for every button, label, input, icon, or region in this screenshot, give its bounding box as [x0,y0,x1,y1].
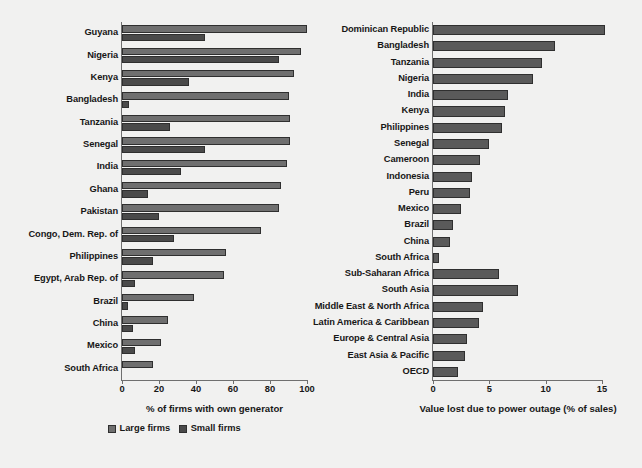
category-label-kenya: Kenya [402,107,429,116]
bar-row: India [433,87,602,103]
y-axis-line-right [432,22,433,380]
bar-row: Pakistan [122,201,307,223]
bar-row: China [122,313,307,335]
category-label-peru: Peru [409,188,429,197]
bar-sub-saharan-africa-value-lost-due-to-power-outage [433,269,499,279]
legend-item-small-firms[interactable]: Small firms [179,424,241,433]
bar-brazil-large-firms [122,294,194,301]
bar-peru-value-lost-due-to-power-outage [433,188,470,198]
category-label-brazil: Brazil [93,297,118,306]
bar-row: OECD [433,364,602,380]
bar-row: Bangladesh [122,89,307,111]
bar-philippines-large-firms [122,249,226,256]
category-label-mexico: Mexico [87,342,118,351]
bar-row: Latin America & Caribbean [433,315,602,331]
bar-brazil-small-firms [122,302,128,309]
legend-label: Small firms [191,424,241,433]
bar-brazil-value-lost-due-to-power-outage [433,220,453,230]
x-axis-ticks-left: 020406080100 [122,380,307,400]
bar-nigeria-large-firms [122,48,301,55]
x-axis-title-right: Value lost due to power outage (% of sal… [413,404,623,414]
bar-row: Peru [433,185,602,201]
figure-canvas: GuyanaNigeriaKenyaBangladeshTanzaniaSene… [0,0,642,468]
bar-row: Brazil [122,291,307,313]
x-axis-title-left: % of firms with own generator [122,404,307,414]
bar-pakistan-small-firms [122,213,159,220]
category-label-brazil: Brazil [404,221,429,230]
bar-kenya-large-firms [122,70,294,77]
bar-south-africa-large-firms [122,361,153,368]
category-label-nigeria: Nigeria [87,51,118,60]
bar-kenya-value-lost-due-to-power-outage [433,106,505,116]
bar-row: Senegal [433,136,602,152]
category-label-egypt-arab-rep-of: Egypt, Arab Rep. of [34,275,118,284]
bar-row: Kenya [122,67,307,89]
category-label-sub-saharan-africa: Sub-Saharan Africa [345,270,429,279]
bar-tanzania-large-firms [122,115,290,122]
category-label-tanzania: Tanzania [391,58,429,67]
category-label-south-africa: South Africa [375,253,429,262]
bar-congo-dem-rep-of-large-firms [122,227,261,234]
bar-nigeria-value-lost-due-to-power-outage [433,74,533,84]
bar-india-value-lost-due-to-power-outage [433,90,508,100]
bar-bangladesh-small-firms [122,101,129,108]
bar-oecd-value-lost-due-to-power-outage [433,367,458,377]
bar-east-asia-pacific-value-lost-due-to-power-outage [433,351,465,361]
bar-south-asia-value-lost-due-to-power-outage [433,285,518,295]
bar-mexico-value-lost-due-to-power-outage [433,204,461,214]
bar-ghana-small-firms [122,190,148,197]
bar-philippines-value-lost-due-to-power-outage [433,123,502,133]
bar-indonesia-value-lost-due-to-power-outage [433,172,472,182]
bar-row: India [122,156,307,178]
bar-philippines-small-firms [122,257,153,264]
category-label-philippines: Philippines [70,252,119,261]
bar-row: China [433,234,602,250]
bar-row: Tanzania [122,112,307,134]
category-label-china: China [404,237,429,246]
plot-area-own-generator: GuyanaNigeriaKenyaBangladeshTanzaniaSene… [122,22,307,380]
bar-senegal-value-lost-due-to-power-outage [433,139,489,149]
category-label-india: India [97,163,118,172]
bar-tanzania-value-lost-due-to-power-outage [433,58,542,68]
x-tick-label: 60 [228,385,238,394]
bar-row: South Africa [433,250,602,266]
x-tick-label: 100 [299,385,315,394]
bar-row: Senegal [122,134,307,156]
bar-row: Dominican Republic [433,22,602,38]
category-label-bangladesh: Bangladesh [66,96,118,105]
bar-egypt-arab-rep-of-small-firms [122,280,135,287]
bar-latin-america-caribbean-value-lost-due-to-power-outage [433,318,479,328]
bar-india-large-firms [122,160,287,167]
chart-panel-value-lost: Dominican RepublicBangladeshTanzaniaNige… [321,0,642,468]
bar-congo-dem-rep-of-small-firms [122,235,174,242]
category-label-oecd: OECD [403,367,429,376]
chart-legend: Large firmsSmall firms [108,424,241,433]
category-label-philippines: Philippines [381,123,430,132]
category-label-bangladesh: Bangladesh [377,42,429,51]
bar-ghana-large-firms [122,182,281,189]
x-axis-ticks-right: 051015 [433,380,602,400]
plot-area-value-lost: Dominican RepublicBangladeshTanzaniaNige… [433,22,602,380]
bar-india-small-firms [122,168,181,175]
bar-row: Ghana [122,179,307,201]
bar-china-value-lost-due-to-power-outage [433,237,450,247]
x-tick-label: 0 [119,385,124,394]
bar-china-large-firms [122,316,168,323]
y-axis-line-left [121,22,122,380]
bar-pakistan-large-firms [122,204,279,211]
bar-row: Bangladesh [433,38,602,54]
category-label-pakistan: Pakistan [81,208,118,217]
category-label-middle-east-north-africa: Middle East & North Africa [315,302,429,311]
x-tick-label: 5 [487,385,492,394]
category-label-south-africa: South Africa [64,364,118,373]
category-label-dominican-republic: Dominican Republic [341,25,429,34]
x-tick-label: 0 [430,385,435,394]
category-label-cameroon: Cameroon [384,156,429,165]
category-label-nigeria: Nigeria [398,74,429,83]
bar-row: Nigeria [433,71,602,87]
category-label-indonesia: Indonesia [387,172,430,181]
bar-europe-central-asia-value-lost-due-to-power-outage [433,334,467,344]
bar-senegal-large-firms [122,137,290,144]
legend-item-large-firms[interactable]: Large firms [108,424,170,433]
bar-guyana-large-firms [122,25,307,32]
